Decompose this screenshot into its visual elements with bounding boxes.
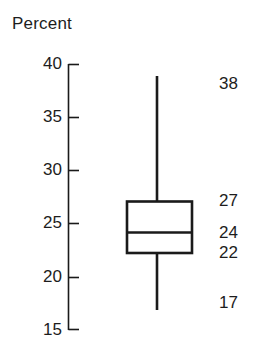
value-label-min: 17 <box>219 293 238 313</box>
value-label-q3: 27 <box>219 191 238 211</box>
value-label-q1: 22 <box>219 243 238 263</box>
box-iqr <box>127 202 192 254</box>
value-label-median: 24 <box>219 223 238 243</box>
value-label-max: 38 <box>219 74 238 94</box>
box-plot-figure: Percent 40 35 30 25 20 15 38 27 24 22 17 <box>0 0 258 351</box>
